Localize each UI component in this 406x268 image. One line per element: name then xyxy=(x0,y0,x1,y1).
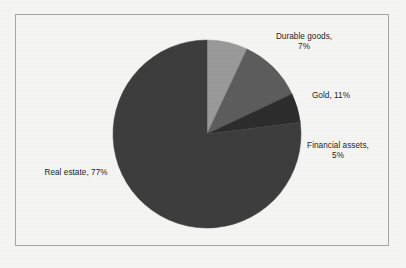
pie-chart-figure: Durable goods, 7% Gold, 11% Financial as… xyxy=(0,0,406,268)
slice-label-durable-goods: Durable goods, 7% xyxy=(250,32,358,53)
slice-label-gold: Gold, 11% xyxy=(286,91,376,101)
slice-label-financial-assets: Financial assets, 5% xyxy=(288,141,388,162)
pie-slice-group xyxy=(113,40,301,228)
pie-plot-area: Durable goods, 7% Gold, 11% Financial as… xyxy=(0,0,406,268)
slice-label-real-estate: Real estate, 77% xyxy=(28,168,124,178)
